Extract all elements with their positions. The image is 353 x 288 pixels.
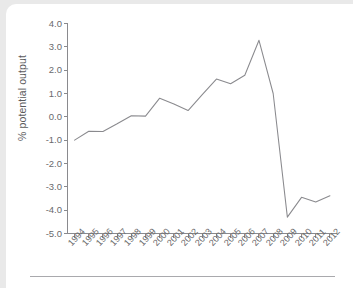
plot-svg	[0, 0, 353, 288]
x-axis-ticks	[75, 234, 330, 238]
line-chart: % potential output 4.03.02.01.00.0-1.0-2…	[0, 0, 353, 288]
figure-page: % potential output 4.03.02.01.00.0-1.0-2…	[0, 0, 353, 288]
data-series-line	[75, 40, 330, 217]
y-axis-ticks	[64, 24, 68, 234]
footer-divider	[30, 276, 335, 277]
